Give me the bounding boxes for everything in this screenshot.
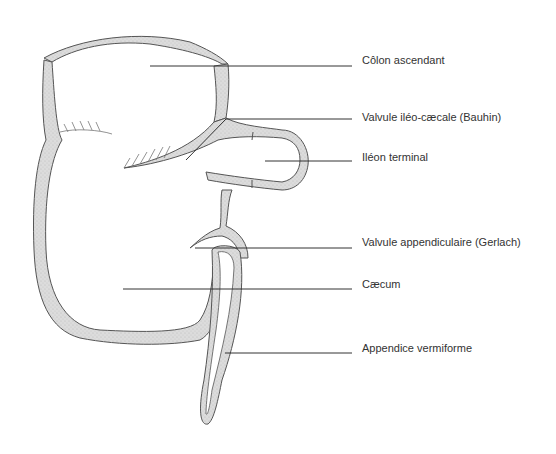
label-colon-ascendant: Côlon ascendant [362, 54, 445, 66]
label-caecum: Cæcum [362, 278, 401, 290]
colon-septum [214, 64, 229, 122]
label-valvule-bauhin: Valvule iléo-cæcale (Bauhin) [362, 111, 501, 123]
label-appendice-vermiforme: Appendice vermiforme [362, 342, 472, 354]
caecum-wall [44, 36, 228, 64]
label-ileon-terminal: Iléon terminal [362, 151, 428, 163]
label-valvule-gerlach: Valvule appendiculaire (Gerlach) [362, 236, 521, 248]
caecum-appendix-illustration [0, 0, 556, 454]
caecum-left-wall [34, 60, 223, 344]
